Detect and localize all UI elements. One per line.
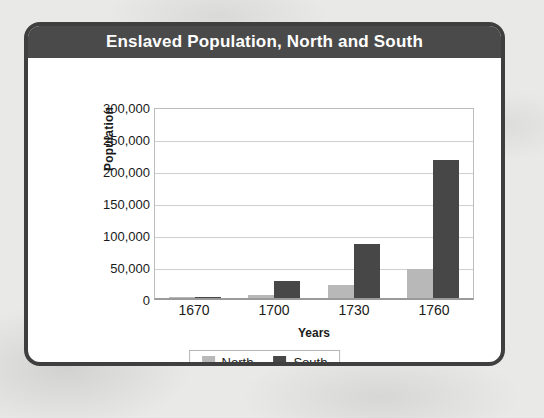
bar-north-1730	[328, 285, 354, 298]
x-axis-tick-1700: 1700	[239, 302, 309, 318]
bar-groups	[155, 109, 473, 298]
y-axis-tick: 100,000	[103, 229, 150, 244]
bar-group-1760	[398, 109, 468, 298]
bar-group-1730	[319, 109, 389, 298]
legend-swatch-north	[202, 356, 215, 366]
legend-item-south: South	[273, 355, 327, 366]
y-axis-tick-labels: 050,000100,000150,000200,000250,000300,0…	[72, 108, 150, 300]
y-axis-tick: 250,000	[103, 133, 150, 148]
page-title: Enslaved Population, North and South	[106, 32, 423, 52]
chart-legend: North South	[189, 350, 341, 366]
y-axis-tick: 300,000	[103, 101, 150, 116]
y-axis-tick: 200,000	[103, 165, 150, 180]
legend-item-north: North	[202, 355, 254, 366]
x-axis-label: Years	[154, 326, 474, 340]
bar-south-1760	[433, 160, 459, 298]
bar-group-1670	[160, 109, 230, 298]
legend-label-north: North	[222, 355, 254, 366]
legend-label-south: South	[293, 355, 327, 366]
plot-area	[154, 108, 474, 300]
bar-south-1670	[195, 297, 221, 298]
chart-body: Population 050,000100,000150,000200,0002…	[28, 58, 501, 362]
bar-north-1670	[169, 297, 195, 298]
bar-south-1730	[354, 244, 380, 298]
x-axis-tick-1760: 1760	[399, 302, 469, 318]
y-axis-tick: 150,000	[103, 197, 150, 212]
legend-swatch-south	[273, 356, 286, 366]
plot-area-wrapper: Population 050,000100,000150,000200,0002…	[28, 58, 505, 288]
y-axis-tick: 0	[143, 293, 150, 308]
bar-north-1700	[248, 295, 274, 298]
chart-title-bar: Enslaved Population, North and South	[28, 26, 501, 58]
x-axis-tick-1670: 1670	[159, 302, 229, 318]
x-axis-tick-1730: 1730	[319, 302, 389, 318]
bar-north-1760	[407, 269, 433, 298]
x-axis-tick-labels: 1670170017301760	[154, 302, 474, 318]
bar-south-1700	[274, 281, 300, 298]
chart-card: Enslaved Population, North and South Pop…	[24, 22, 505, 366]
bar-group-1700	[239, 109, 309, 298]
y-axis-tick: 50,000	[110, 261, 150, 276]
